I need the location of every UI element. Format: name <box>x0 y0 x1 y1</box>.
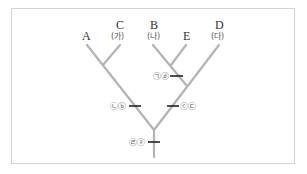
taxon-d-sublabel: (다) <box>211 32 224 41</box>
taxon-b-sublabel: (나) <box>147 32 160 41</box>
mark-label-top: ㉠ⓓ <box>153 72 169 81</box>
mark-label-left: ㉡ⓑ <box>110 102 126 111</box>
taxon-a-label: A <box>82 29 91 43</box>
taxon-d-label: D <box>215 18 224 32</box>
branch-e <box>171 45 186 65</box>
taxon-c-sublabel: (가) <box>111 32 124 41</box>
taxon-c-label: C <box>116 18 124 32</box>
mark-label-right: ⓒ㉢ <box>180 102 196 111</box>
taxon-e-label: E <box>183 29 190 43</box>
branch-c <box>103 45 120 65</box>
cladogram: A C (가) B (나) E D (다) ㉠ⓓ ㉡ⓑ ⓒ㉢ ㉣ⓐ <box>0 0 307 174</box>
mark-label-root: ㉣ⓐ <box>129 138 145 147</box>
branch-left-clade <box>87 45 154 130</box>
taxon-b-label: B <box>150 18 158 32</box>
